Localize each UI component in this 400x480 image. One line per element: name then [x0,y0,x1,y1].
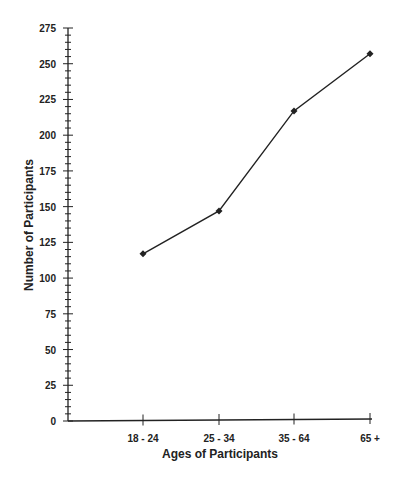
x-tick-label: 35 - 64 [278,433,310,444]
data-series [140,50,374,257]
x-tick-label: 25 - 34 [203,433,235,444]
x-axis: 18 - 2425 - 3435 - 6465 + [68,413,380,444]
y-tick-label: 100 [39,273,56,284]
x-tick-label: 65 + [360,433,380,444]
y-tick-label: 250 [39,59,56,70]
y-tick-label: 175 [39,166,56,177]
x-tick-label: 18 - 24 [127,433,159,444]
y-axis-label: Number of Participants [22,159,36,291]
x-axis-label: Ages of Participants [162,447,278,461]
y-tick-label: 75 [45,309,57,320]
y-tick-label: 225 [39,94,56,105]
y-axis: 0255075100125150175200225250275 [39,23,73,427]
x-axis-line [68,419,372,421]
y-tick-label: 200 [39,130,56,141]
y-tick-label: 25 [45,380,57,391]
y-tick-label: 150 [39,202,56,213]
y-tick-label: 275 [39,23,56,34]
line-chart: 0255075100125150175200225250275 18 - 242… [0,0,400,480]
series-line [143,54,370,254]
diamond-marker [140,250,147,257]
y-tick-label: 50 [45,345,57,356]
y-tick-label: 0 [50,416,56,427]
y-tick-label: 125 [39,237,56,248]
